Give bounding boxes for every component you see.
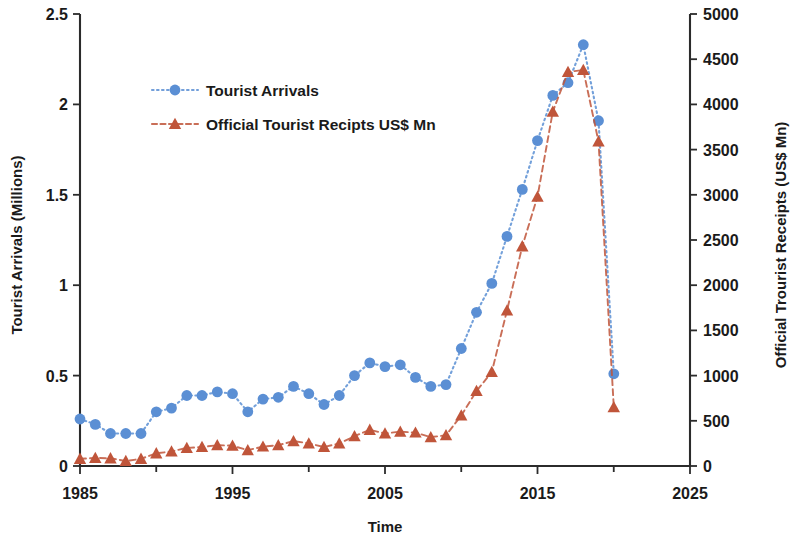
left-tick-label: 0.5 [46,368,68,385]
legend-circle-marker-icon [170,85,181,96]
data-point-marker [592,135,604,146]
chart-plot-area: 00.511.522.5 050010001500200025003000350… [0,0,802,539]
data-point-marker [578,39,589,50]
data-series-group [74,39,620,466]
data-point-marker [364,358,375,369]
x-axis-ticks: 19851995200520152025 [62,466,708,502]
legend-item-label: Tourist Arrivals [206,82,319,99]
axis-titles-group: Tourist Arrivals (Millions) Official Tro… [8,122,789,535]
x-tick-label: 1985 [62,485,98,502]
data-point-marker [273,392,284,403]
data-point-marker [608,368,619,379]
right-tick-label: 1000 [703,368,739,385]
right-tick-label: 2500 [703,232,739,249]
data-point-marker [471,307,482,318]
data-point-marker [288,381,299,392]
right-tick-label: 3500 [703,142,739,159]
data-point-marker [348,430,360,441]
x-tick-label: 2005 [367,485,403,502]
data-point-marker [165,445,177,456]
left-tick-label: 0 [59,458,68,475]
data-point-marker [319,399,330,410]
chart-legend: Tourist ArrivalsOfficial Tourist Recipts… [152,82,436,133]
data-point-marker [562,66,574,77]
data-point-marker [379,427,391,438]
right-tick-label: 4000 [703,96,739,113]
left-tick-label: 2.5 [46,6,68,23]
left-tick-label: 1 [59,277,68,294]
left-axis-ticks: 00.511.522.5 [46,6,80,475]
x-axis-title: Time [368,518,403,535]
data-point-marker [136,428,147,439]
data-point-marker [75,414,86,425]
right-tick-label: 500 [703,413,730,430]
left-axis-title: Tourist Arrivals (Millions) [8,155,25,334]
data-point-marker [227,388,238,399]
series-1 [75,39,620,439]
data-point-marker [303,437,315,448]
data-point-marker [532,135,543,146]
data-point-marker [395,359,406,370]
left-tick-label: 2 [59,96,68,113]
right-tick-label: 4500 [703,51,739,68]
x-tick-label: 1995 [215,485,251,502]
right-tick-label: 1500 [703,322,739,339]
x-tick-label: 2025 [672,485,708,502]
data-point-marker [333,437,345,448]
data-point-marker [486,278,497,289]
right-tick-label: 0 [703,458,712,475]
data-point-marker [120,428,131,439]
data-point-marker [303,388,314,399]
axes-group [80,14,690,466]
data-point-marker [455,409,467,420]
legend-item[interactable]: Official Tourist Recipts US$ Mn [152,116,436,133]
right-axis-title: Official Trourist Receipts (US$ Mn) [772,122,789,369]
data-point-marker [349,370,360,381]
data-point-marker [166,403,177,414]
data-point-marker [502,231,513,242]
data-point-marker [425,381,436,392]
data-point-marker [334,390,345,401]
data-point-marker [410,372,421,383]
data-point-marker [380,361,391,372]
right-tick-label: 2000 [703,277,739,294]
right-tick-label: 3000 [703,187,739,204]
legend-item[interactable]: Tourist Arrivals [152,82,319,99]
data-point-marker [486,366,498,377]
data-point-marker [242,406,253,417]
data-point-marker [517,184,528,195]
data-point-marker [364,424,376,435]
data-point-marker [516,240,529,251]
data-point-marker [258,394,269,405]
data-point-marker [135,453,147,464]
x-tick-label: 2015 [520,485,556,502]
legend-item-label: Official Tourist Recipts US$ Mn [206,116,436,133]
data-point-marker [531,190,543,201]
left-tick-label: 1.5 [46,187,68,204]
data-point-marker [197,390,208,401]
data-point-marker [287,435,299,446]
data-point-marker [105,428,116,439]
data-point-marker [441,379,452,390]
series-line [80,45,614,434]
right-tick-label: 5000 [703,6,739,23]
data-point-marker [501,304,513,315]
data-point-marker [151,406,162,417]
data-point-marker [212,387,223,398]
data-point-marker [90,419,101,430]
data-point-marker [608,401,621,412]
right-axis-ticks: 0500100015002000250030003500400045005000 [690,6,739,475]
data-point-marker [456,343,467,354]
chart-container: 00.511.522.5 050010001500200025003000350… [0,0,802,539]
data-point-marker [181,390,192,401]
